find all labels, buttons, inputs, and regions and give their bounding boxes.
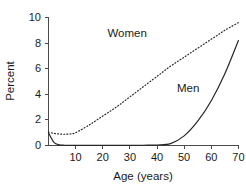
y-axis-tick-labels: 0 2 4 6 8 10: [29, 11, 41, 151]
y-tick-label-2: 2: [35, 113, 41, 125]
y-tick-label-4: 4: [35, 88, 41, 100]
line-chart: 0 2 4 6 8 10 10 20 30 40 50 60 70: [0, 0, 246, 191]
y-tick-label-10: 10: [29, 11, 41, 23]
x-axis-ticks: [76, 146, 239, 150]
y-axis-title: Percent: [4, 60, 16, 100]
y-tick-label-8: 8: [35, 37, 41, 49]
x-tick-label-60: 60: [205, 151, 217, 163]
y-axis-ticks: [45, 18, 49, 146]
x-tick-label-10: 10: [69, 151, 81, 163]
y-tick-label-6: 6: [35, 62, 41, 74]
x-axis-tick-labels: 10 20 30 40 50 60 70: [69, 151, 244, 163]
x-axis-title: Age (years): [113, 170, 173, 182]
chart-container: 0 2 4 6 8 10 10 20 30 40 50 60 70: [0, 0, 246, 191]
men-label: Men: [177, 82, 199, 94]
x-tick-label-40: 40: [151, 151, 163, 163]
series-annotation-women: Women: [105, 26, 148, 40]
x-tick-label-70: 70: [232, 151, 244, 163]
x-tick-label-50: 50: [178, 151, 190, 163]
series-line-men: [49, 41, 239, 146]
x-tick-label-20: 20: [97, 151, 109, 163]
women-label: Women: [107, 27, 146, 39]
y-tick-label-0: 0: [35, 139, 41, 151]
series-annotation-men: Men: [175, 81, 201, 95]
x-tick-label-30: 30: [124, 151, 136, 163]
